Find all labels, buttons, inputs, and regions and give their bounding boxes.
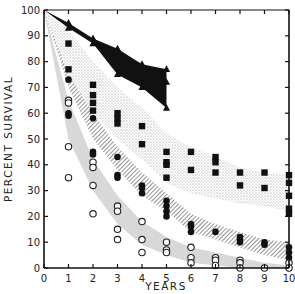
open-circle-band-point xyxy=(163,239,169,245)
filled-circle-band-point xyxy=(114,154,121,161)
filled-square-band-point xyxy=(139,141,145,147)
filled-square-band-point xyxy=(114,120,120,126)
filled-circle-band-point xyxy=(65,112,72,119)
open-circle-band-point xyxy=(90,164,96,170)
open-circle-band-point xyxy=(65,175,71,181)
x-tick-label: 7 xyxy=(212,273,218,284)
filled-square-band-point xyxy=(90,92,96,98)
open-circle-band-point xyxy=(114,208,120,214)
x-tick-label: 2 xyxy=(90,273,96,284)
filled-square-band-point xyxy=(212,159,218,165)
filled-square-band-point xyxy=(163,175,169,181)
filled-square-band-point xyxy=(261,169,267,175)
open-circle-band-point xyxy=(65,144,71,150)
filled-square-band-point xyxy=(139,123,145,129)
filled-square-band-point xyxy=(237,182,243,188)
filled-circle-band-point xyxy=(139,190,146,197)
filled-square-band-point xyxy=(261,185,267,191)
open-circle-band-point xyxy=(188,244,194,250)
filled-square-band-point xyxy=(90,100,96,106)
survival-chart: 0123456789100102030405060708090100 YEARS… xyxy=(0,0,295,294)
y-tick-label: 80 xyxy=(27,56,40,67)
y-tick-label: 50 xyxy=(27,134,40,145)
filled-circle-band-point xyxy=(188,229,195,236)
y-tick-label: 60 xyxy=(27,108,40,119)
y-tick-label: 90 xyxy=(27,30,40,41)
x-tick-label: 8 xyxy=(237,273,243,284)
filled-circle-band-point xyxy=(163,213,170,220)
filled-square-band-point xyxy=(188,167,194,173)
bands-layer xyxy=(44,10,289,268)
filled-square-band-point xyxy=(237,169,243,175)
x-tick-label: 3 xyxy=(114,273,120,284)
x-tick-label: 9 xyxy=(261,273,267,284)
x-tick-label: 0 xyxy=(41,273,47,284)
filled-circle-band-point xyxy=(114,174,121,181)
filled-square-band-point xyxy=(65,66,71,72)
y-axis-title: PERCENT SURVIVAL xyxy=(2,76,14,202)
filled-circle-band-point xyxy=(237,239,244,246)
filled-circle-band-point xyxy=(65,76,72,83)
triangle-band-point xyxy=(163,65,170,72)
x-tick-label: 6 xyxy=(188,273,194,284)
open-circle-band-point xyxy=(114,236,120,242)
y-tick-label: 30 xyxy=(27,185,40,196)
open-circle-band-point xyxy=(139,236,145,242)
open-circle-band-point xyxy=(65,100,71,106)
x-axis-title: YEARS xyxy=(144,280,187,292)
filled-circle-band-point xyxy=(90,115,97,122)
filled-square-band-point xyxy=(90,82,96,88)
y-tick-label: 10 xyxy=(27,237,40,248)
filled-circle-band-point xyxy=(90,151,97,158)
open-circle-band-point xyxy=(90,182,96,188)
filled-square-band-point xyxy=(90,107,96,113)
y-tick-label: 20 xyxy=(27,211,40,222)
filled-square-band-point xyxy=(188,149,194,155)
filled-square-band-point xyxy=(163,149,169,155)
y-tick-label: 40 xyxy=(27,159,40,170)
filled-square-band-point xyxy=(65,40,71,46)
y-tick-label: 70 xyxy=(27,82,40,93)
x-tick-label: 1 xyxy=(65,273,71,284)
y-tick-label: 100 xyxy=(21,5,40,16)
y-tick-label: 0 xyxy=(34,263,40,274)
filled-square-band-point xyxy=(212,169,218,175)
open-circle-band-point xyxy=(90,211,96,217)
x-tick-label: 10 xyxy=(283,273,295,284)
filled-circle-band-point xyxy=(212,229,219,236)
open-circle-band-point xyxy=(139,249,145,255)
open-circle-band-point xyxy=(163,249,169,255)
filled-circle-band-point xyxy=(261,241,268,248)
filled-square-band-point xyxy=(163,162,169,168)
open-circle-band-point xyxy=(114,226,120,232)
open-circle-band-point xyxy=(139,218,145,224)
